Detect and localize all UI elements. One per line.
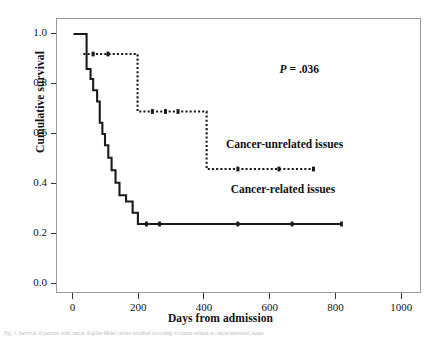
p-symbol: P — [280, 63, 287, 75]
cancer-unrelated-label: Cancer-unrelated issues — [226, 138, 343, 150]
p-value: P = .036 — [280, 63, 319, 75]
p-value-number: = .036 — [287, 63, 319, 75]
x-axis-label: Days from admission — [0, 312, 441, 324]
figure-caption: Fig. 1. Survival of patients with cancer… — [4, 330, 437, 339]
chart-annotations: P = .036Cancer-unrelated issuesCancer-re… — [0, 0, 441, 339]
kaplan-meier-figure: Cumulative survival 0.00.20.40.60.81.0 0… — [0, 0, 441, 339]
cancer-related-label: Cancer-related issues — [231, 183, 335, 195]
